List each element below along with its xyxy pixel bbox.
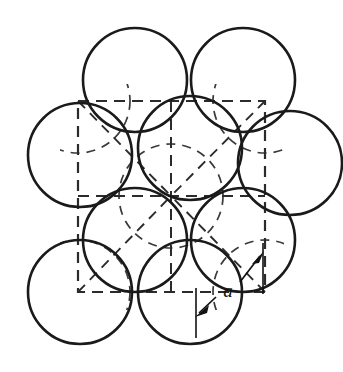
crystal-packing-figure: a (0, 0, 343, 372)
figure-background (0, 0, 343, 372)
dimension-label-a: a (223, 280, 233, 301)
packing-diagram-svg: a (0, 0, 343, 372)
